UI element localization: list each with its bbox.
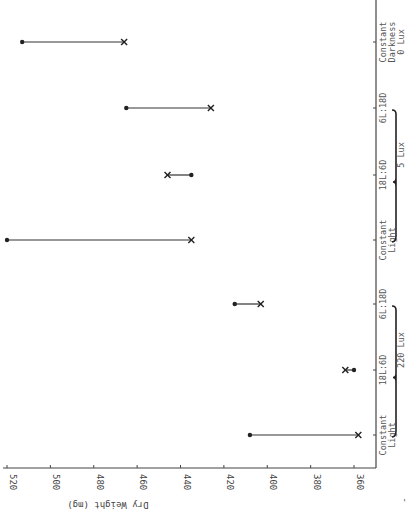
- y-tick-label: 480: [95, 474, 105, 490]
- dot-marker: [248, 433, 252, 437]
- y-tick-label: 380: [312, 474, 322, 490]
- dry-weight-chart: 520500480460440420400380360 ConstantLigh…: [0, 0, 410, 513]
- category-label: 0 Lux: [396, 29, 406, 55]
- y-tick-label: 400: [268, 474, 278, 490]
- y-tick-label: 440: [182, 474, 192, 490]
- category-label: 18L:6D: [378, 160, 388, 191]
- category-labels: ConstantLight18L:6D6L:18DConstantLight18…: [373, 22, 406, 456]
- y-tick-label: 360: [355, 474, 365, 490]
- y-axis-ticks: 520500480460440420400380360: [7, 465, 365, 490]
- axes: [3, 0, 376, 468]
- dot-marker: [233, 302, 237, 306]
- y-tick-label: 520: [8, 474, 18, 490]
- category-label: 6L:18D: [378, 93, 388, 124]
- dot-marker: [352, 368, 356, 372]
- y-tick-label: 500: [51, 474, 61, 490]
- group-label: 5 Lux: [396, 142, 406, 168]
- y-tick-label: 460: [138, 474, 148, 490]
- group-brace: [392, 110, 396, 242]
- category-label: 18L:6D: [378, 355, 388, 386]
- y-tick-label: 420: [225, 474, 235, 490]
- group-label: 220 Lux: [396, 332, 406, 368]
- dot-marker: [20, 40, 24, 44]
- data-series: [5, 39, 362, 438]
- group-brace: [392, 306, 396, 437]
- category-label: 6L:18D: [378, 289, 388, 320]
- corner-mark: ': [402, 498, 407, 508]
- dot-marker: [189, 173, 193, 177]
- dot-marker: [5, 238, 9, 242]
- y-axis-title: Dry Weight (mg): [67, 500, 148, 510]
- dot-marker: [124, 106, 128, 110]
